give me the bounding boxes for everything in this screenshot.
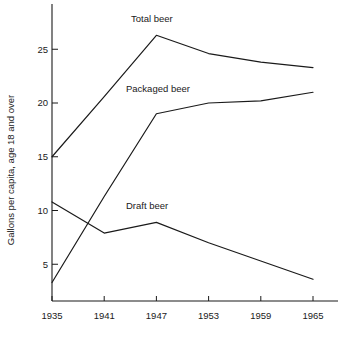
y-tick-label-20: 20 xyxy=(37,97,48,108)
beer-consumption-line-chart: Gallons per capita, age 18 and over 5 10… xyxy=(0,0,342,340)
x-axis-ticks: 1935 1941 1947 1953 1959 1965 xyxy=(41,296,323,321)
series-line-draft-beer xyxy=(52,202,313,279)
series-label-draft-beer: Draft beer xyxy=(126,200,168,211)
x-tick-label-1953: 1953 xyxy=(198,310,219,321)
y-tick-label-25: 25 xyxy=(37,44,48,55)
y-tick-label-15: 15 xyxy=(37,151,48,162)
y-axis-title: Gallons per capita, age 18 and over xyxy=(5,95,16,246)
series-line-total-beer xyxy=(52,35,313,156)
x-tick-label-1941: 1941 xyxy=(94,310,115,321)
x-tick-label-1965: 1965 xyxy=(302,310,323,321)
x-tick-label-1935: 1935 xyxy=(41,310,62,321)
x-tick-label-1947: 1947 xyxy=(146,310,167,321)
series-label-packaged-beer: Packaged beer xyxy=(126,83,190,94)
series-paths xyxy=(52,35,313,282)
y-tick-label-5: 5 xyxy=(43,259,48,270)
chart-page: Gallons per capita, age 18 and over 5 10… xyxy=(0,0,342,340)
series-label-total-beer: Total beer xyxy=(131,13,173,24)
y-tick-label-10: 10 xyxy=(37,205,48,216)
x-tick-label-1959: 1959 xyxy=(250,310,271,321)
series-line-packaged-beer xyxy=(52,92,313,282)
y-axis-ticks: 5 10 15 20 25 xyxy=(37,44,58,270)
